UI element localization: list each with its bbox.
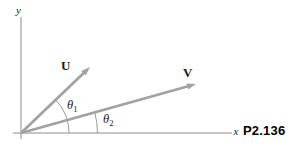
figure-p2136: y x U V θ1 θ2 P2.136 <box>0 0 291 151</box>
theta2-subscript: 2 <box>109 118 113 128</box>
theta1-subscript: 1 <box>73 104 77 114</box>
figure-id-label: P2.136 <box>243 123 285 138</box>
x-axis-label: x <box>233 125 239 137</box>
y-axis-label: y <box>15 4 21 16</box>
vector-angle-diagram: y x U V θ1 θ2 P2.136 <box>0 0 291 151</box>
vector-v-label: V <box>183 65 193 80</box>
vector-u-label: U <box>61 58 71 73</box>
